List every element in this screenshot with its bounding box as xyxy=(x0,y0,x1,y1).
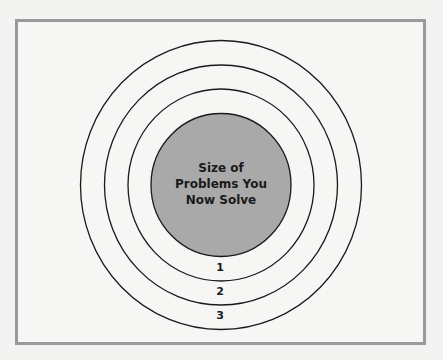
ring-1-label: 1 xyxy=(210,261,230,274)
ring-3-label: 3 xyxy=(210,309,230,322)
center-label-line-3: Now Solve xyxy=(151,192,291,208)
center-circle-label: Size of Problems You Now Solve xyxy=(151,160,291,208)
center-label-line-1: Size of xyxy=(151,160,291,176)
center-label-line-2: Problems You xyxy=(151,176,291,192)
ring-2-label: 2 xyxy=(210,285,230,298)
